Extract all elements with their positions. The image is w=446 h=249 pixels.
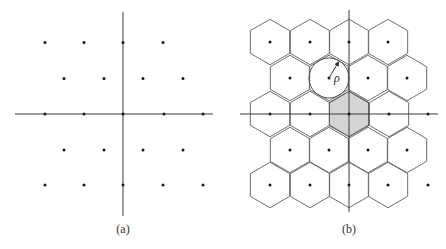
panel-a-caption: (a) (116, 222, 129, 236)
lattice-point (142, 77, 145, 80)
lattice-point (406, 77, 409, 80)
lattice-figure: (a) ρ (b) (0, 0, 446, 249)
lattice-point (44, 184, 47, 187)
lattice-point (388, 113, 391, 116)
panel-a-square-lattice: (a) (15, 12, 213, 236)
lattice-point (328, 149, 331, 152)
lattice-point (182, 149, 185, 152)
panel-b-caption: (b) (342, 222, 356, 236)
panel-b-hexagonal-packing: ρ (b) (240, 10, 438, 236)
lattice-point (309, 184, 312, 187)
lattice-point (289, 77, 292, 80)
lattice-point (122, 184, 125, 187)
lattice-point (83, 41, 86, 44)
lattice-point (83, 113, 86, 116)
lattice-point (142, 149, 145, 152)
lattice-point (44, 113, 47, 116)
lattice-point (83, 184, 86, 187)
lattice-point (427, 184, 430, 187)
lattice-point (182, 77, 185, 80)
lattice-point (269, 41, 272, 44)
lattice-point (427, 113, 430, 116)
lattice-point (309, 41, 312, 44)
lattice-point (367, 77, 370, 80)
lattice-point (348, 184, 351, 187)
lattice-point (103, 77, 106, 80)
lattice-point (202, 113, 205, 116)
lattice-point (202, 184, 205, 187)
lattice-point (387, 184, 390, 187)
lattice-point (63, 149, 66, 152)
lattice-point (387, 41, 390, 44)
lattice-point (367, 149, 370, 152)
lattice-point (162, 41, 165, 44)
lattice-point (269, 113, 272, 116)
lattice-point (162, 184, 165, 187)
lattice-point (103, 149, 106, 152)
lattice-point (348, 41, 351, 44)
lattice-point (406, 149, 409, 152)
rho-symbol: ρ (333, 71, 340, 85)
lattice-point (309, 113, 312, 116)
lattice-point (122, 41, 125, 44)
lattice-point (44, 41, 47, 44)
lattice-point (163, 113, 166, 116)
lattice-point (348, 113, 351, 116)
lattice-point (269, 184, 272, 187)
lattice-point (63, 77, 66, 80)
lattice-point (122, 113, 125, 116)
lattice-point (289, 149, 292, 152)
